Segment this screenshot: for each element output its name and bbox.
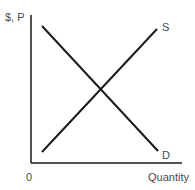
y-axis-label: $, P [5, 11, 25, 23]
x-axis-label: Quantity [148, 171, 189, 183]
supply-label: S [162, 21, 169, 33]
demand-label: D [162, 149, 170, 161]
supply-demand-chart: $, P S D 0 Quantity [0, 0, 195, 190]
origin-label: 0 [26, 171, 32, 183]
supply-curve [42, 29, 157, 152]
